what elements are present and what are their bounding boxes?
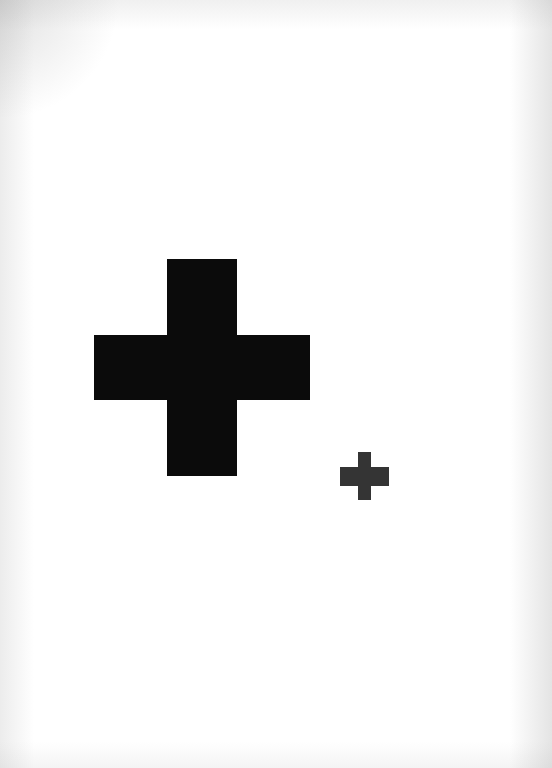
page-corner-shading <box>0 0 120 120</box>
small-plus-icon <box>340 452 389 500</box>
large-plus-icon <box>94 259 310 476</box>
large-plus-horizontal-bar <box>94 335 310 400</box>
page-canvas <box>0 0 552 768</box>
small-plus-horizontal-bar <box>340 467 389 486</box>
